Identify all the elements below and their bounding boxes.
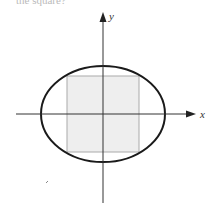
stray-mark	[46, 181, 48, 183]
y-axis-arrow-icon	[100, 12, 107, 22]
x-axis-label: x	[199, 108, 205, 120]
ellipse-square-diagram: x y	[0, 0, 216, 210]
x-axis-arrow-icon	[186, 111, 196, 118]
y-axis-label: y	[108, 10, 114, 22]
